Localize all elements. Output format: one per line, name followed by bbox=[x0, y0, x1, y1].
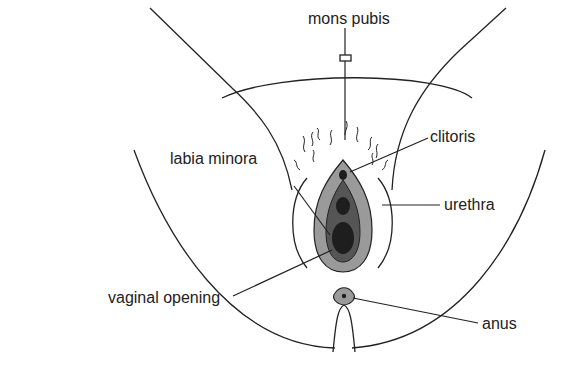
urethra-shape bbox=[336, 197, 350, 215]
leader-vaginal-opening bbox=[233, 250, 332, 296]
label-urethra: urethra bbox=[444, 196, 495, 213]
mons-curve bbox=[222, 78, 472, 98]
label-vaginal-opening: vaginal opening bbox=[108, 289, 220, 306]
vulva-shapes bbox=[314, 160, 372, 305]
label-clitoris: clitoris bbox=[430, 128, 475, 145]
diagram-canvas: mons pubis clitoris labia minora urethra… bbox=[0, 0, 573, 377]
label-mons-pubis: mons pubis bbox=[308, 10, 390, 27]
leader-clitoris bbox=[350, 138, 428, 172]
left-labia-majora bbox=[293, 178, 307, 268]
anatomy-diagram: mons pubis clitoris labia minora urethra… bbox=[0, 0, 573, 377]
clitoris-shape bbox=[339, 170, 347, 180]
right-thigh-upper-line bbox=[392, 8, 506, 190]
gluteal-cleft bbox=[333, 305, 355, 352]
label-anus: anus bbox=[482, 315, 517, 332]
vaginal-opening-shape bbox=[332, 222, 354, 254]
right-labia-majora bbox=[378, 178, 392, 268]
mons-marker bbox=[340, 55, 351, 61]
label-labia-minora: labia minora bbox=[170, 150, 257, 167]
